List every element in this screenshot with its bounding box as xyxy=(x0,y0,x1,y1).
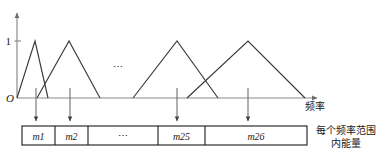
bin-cell-m2: m2 xyxy=(65,131,77,142)
filter-triangle-25 xyxy=(133,41,218,98)
caption-line-1: 每个频率范围 xyxy=(316,124,376,136)
caption-line-2: 内能量 xyxy=(331,137,361,149)
mel-filterbank-diagram: 1 O 频率 ⋯ m1 m2 ⋯ m25 xyxy=(0,0,386,165)
filter-triangle-26 xyxy=(187,41,305,98)
y-axis-tick-label: 1 xyxy=(6,35,12,47)
bin-arrows-group xyxy=(36,88,248,121)
bin-cell-m25: m25 xyxy=(173,131,190,142)
bin-cell-ellipsis: ⋯ xyxy=(118,130,129,141)
bin-cell-m1: m1 xyxy=(32,131,44,142)
bin-cell-m26: m26 xyxy=(247,131,264,142)
filter-triangle-1 xyxy=(17,41,48,98)
x-axis-label: 频率 xyxy=(305,100,325,112)
energy-caption: 每个频率范围 内能量 xyxy=(316,124,376,149)
mel-filterbank-figure: 1 O 频率 ⋯ m1 m2 ⋯ m25 xyxy=(0,0,386,165)
filter-triangles-group xyxy=(17,41,305,98)
energy-bins-table: m1 m2 ⋯ m25 m26 xyxy=(22,126,307,145)
plot-ellipsis: ⋯ xyxy=(113,61,124,72)
origin-label: O xyxy=(6,92,14,104)
